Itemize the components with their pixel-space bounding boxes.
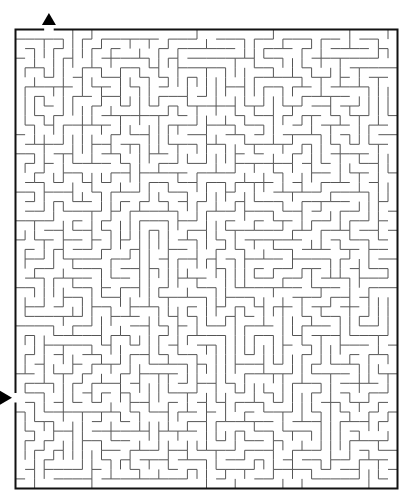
- wall-segments: [16, 30, 398, 489]
- maze-puzzle: [0, 0, 410, 501]
- exit-arrow-right-icon: [0, 391, 12, 405]
- maze-grid: [0, 0, 410, 501]
- maze-walls: [16, 30, 398, 489]
- entry-arrow-up-icon: [42, 13, 56, 25]
